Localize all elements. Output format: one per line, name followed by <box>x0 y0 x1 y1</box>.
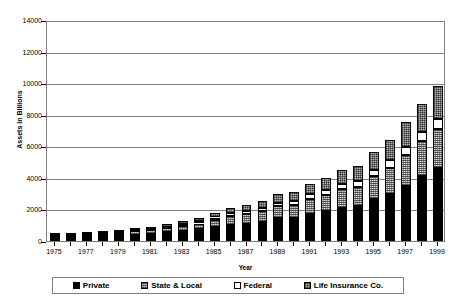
bar-segment <box>401 122 411 146</box>
legend-item: Life Insurance Co. <box>304 282 383 290</box>
bar-column <box>417 104 427 241</box>
bar-column <box>321 178 331 241</box>
x-tick-mark <box>246 242 247 246</box>
bar-segment <box>242 205 252 211</box>
bar-column <box>353 166 363 241</box>
bar-segment <box>369 176 379 199</box>
bar-segment <box>178 231 188 241</box>
bar-column <box>258 201 268 241</box>
bar-segment <box>50 233 60 235</box>
bar-segment <box>194 224 204 230</box>
bar-segment <box>417 132 427 141</box>
bar-column <box>114 230 124 241</box>
bar-segment <box>305 199 315 214</box>
x-axis-title: Year <box>46 264 445 271</box>
x-tick-mark <box>230 242 231 246</box>
bar-segment <box>146 230 156 234</box>
gridline <box>47 53 444 54</box>
y-tick-label: 8000 <box>14 112 42 119</box>
y-tick-label: 2000 <box>14 206 42 213</box>
bar-segment <box>433 129 443 168</box>
bar-segment <box>210 227 220 241</box>
bar-segment <box>146 227 156 229</box>
bar-segment <box>385 140 395 161</box>
bar-segment <box>130 235 140 242</box>
x-tick-mark <box>309 242 310 246</box>
bar-segment <box>146 234 156 241</box>
y-tick-label: 10000 <box>14 80 42 87</box>
bar-segment <box>258 201 268 208</box>
bar-segment <box>210 213 220 218</box>
bar-segment <box>226 225 236 241</box>
bar-column <box>194 218 204 241</box>
x-tick-label: 1995 <box>358 248 388 255</box>
bar-segment <box>273 206 283 218</box>
bar-segment <box>130 228 140 230</box>
bar-segment <box>433 168 443 241</box>
y-tick-mark <box>41 179 46 180</box>
legend-swatch-icon <box>234 282 241 289</box>
bar-segment <box>98 231 108 233</box>
bar-segment <box>242 211 252 214</box>
bar-segment <box>162 224 172 227</box>
x-tick-mark <box>405 242 406 246</box>
bar-column <box>337 170 347 241</box>
bar-segment <box>178 221 188 224</box>
bar-segment <box>385 160 395 167</box>
bar-segment <box>289 218 299 241</box>
bar-column <box>226 208 236 241</box>
bar-segment <box>401 186 411 241</box>
x-tick-label: 1977 <box>71 248 101 255</box>
bar-segment <box>305 194 315 199</box>
bar-segment <box>401 147 411 155</box>
bar-segment <box>210 220 220 227</box>
bar-segment <box>401 155 411 186</box>
bar-column <box>289 192 299 241</box>
y-tick-label: 6000 <box>14 143 42 150</box>
bar-segment <box>66 235 76 237</box>
bar-segment <box>321 178 331 190</box>
bar-segment <box>194 218 204 222</box>
bar-segment <box>417 104 427 132</box>
bar-segment <box>353 166 363 181</box>
bar-segment <box>162 232 172 241</box>
bar-segment <box>178 224 188 226</box>
x-tick-mark <box>437 242 438 246</box>
bar-segment <box>50 238 60 241</box>
legend-item: Private <box>73 282 110 290</box>
legend-label: Private <box>83 282 110 290</box>
x-tick-label: 1989 <box>262 248 292 255</box>
bar-column <box>82 233 92 241</box>
bar-segment <box>114 233 124 236</box>
bar-segment <box>417 176 427 241</box>
bar-segment <box>226 213 236 216</box>
bar-column <box>50 234 60 241</box>
x-tick-mark <box>357 242 358 246</box>
x-tick-mark <box>118 242 119 246</box>
bar-segment <box>82 237 92 241</box>
x-tick-label: 1979 <box>103 248 133 255</box>
gridline <box>47 116 444 117</box>
bar-segment <box>337 170 347 184</box>
bar-segment <box>305 184 315 195</box>
bar-segment <box>273 218 283 241</box>
x-tick-label: 1993 <box>326 248 356 255</box>
bar-segment <box>162 228 172 232</box>
x-tick-label: 1981 <box>135 248 165 255</box>
bar-segment <box>226 208 236 214</box>
bar-segment <box>194 229 204 241</box>
x-tick-mark <box>325 242 326 246</box>
legend-item: State & Local <box>141 282 202 290</box>
bar-segment <box>321 211 331 241</box>
legend-label: Life Insurance Co. <box>314 282 383 290</box>
y-tick-mark <box>41 242 46 243</box>
bar-segment <box>98 234 108 236</box>
x-tick-label: 1991 <box>294 248 324 255</box>
bar-segment <box>353 187 363 207</box>
bar-segment <box>242 214 252 223</box>
bar-segment <box>353 181 363 187</box>
bar-column <box>385 140 395 241</box>
x-tick-mark <box>421 242 422 246</box>
y-axis-tick-labels: 02000400060008000100001200014000 <box>10 0 42 304</box>
x-tick-mark <box>70 242 71 246</box>
